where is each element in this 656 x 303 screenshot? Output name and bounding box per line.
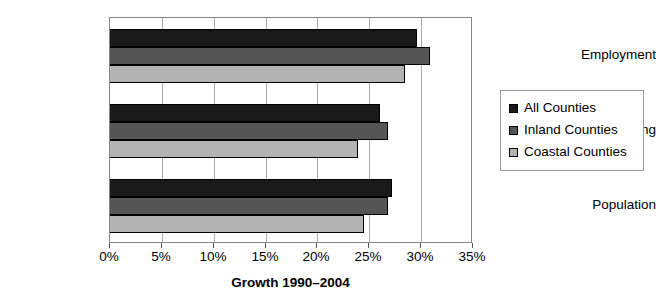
bar-housing-inland-counties <box>110 122 388 140</box>
legend-swatch-icon-inland-counties <box>509 126 518 135</box>
legend-label-all-counties: All Counties <box>524 101 596 115</box>
x-tick-label-10: 10% <box>199 250 226 264</box>
x-tick-label-20: 20% <box>302 250 329 264</box>
x-tick-label-15: 15% <box>251 250 278 264</box>
legend-swatch-icon-coastal-counties <box>509 148 518 157</box>
x-tick-30 <box>420 243 421 248</box>
bar-group-housing <box>110 93 471 168</box>
legend: All Counties Inland Counties Coastal Cou… <box>500 90 644 171</box>
bar-population-inland-counties <box>110 197 388 215</box>
x-tick-label-25: 25% <box>354 250 381 264</box>
bar-population-coastal-counties <box>110 215 364 233</box>
legend-item-all-counties: All Counties <box>509 97 636 119</box>
x-tick-label-30: 30% <box>406 250 433 264</box>
x-axis-title: Growth 1990–2004 <box>109 276 472 290</box>
x-tick-10 <box>213 243 214 248</box>
category-label-0: Employment <box>553 48 656 62</box>
bar-population-all-counties <box>110 179 392 197</box>
x-tick-15 <box>265 243 266 248</box>
plot-area <box>109 17 472 243</box>
legend-swatch-icon-all-counties <box>509 104 518 113</box>
legend-item-inland-counties: Inland Counties <box>509 119 636 141</box>
legend-label-coastal-counties: Coastal Counties <box>524 145 627 159</box>
legend-item-coastal-counties: Coastal Counties <box>509 141 636 163</box>
x-tick-35 <box>472 243 473 248</box>
bar-employment-coastal-counties <box>110 65 405 83</box>
legend-label-inland-counties: Inland Counties <box>524 123 618 137</box>
bar-housing-all-counties <box>110 104 380 122</box>
bar-housing-coastal-counties <box>110 140 358 158</box>
bar-employment-inland-counties <box>110 47 430 65</box>
x-tick-20 <box>316 243 317 248</box>
bar-group-population <box>110 169 471 244</box>
x-tick-label-5: 5% <box>151 250 171 264</box>
bar-group-employment <box>110 18 471 93</box>
x-tick-label-0: 0% <box>99 250 119 264</box>
bar-employment-all-counties <box>110 29 417 47</box>
x-tick-5 <box>161 243 162 248</box>
x-tick-25 <box>368 243 369 248</box>
x-tick-label-35: 35% <box>458 250 485 264</box>
bar-chart: Employment Housing Population Growth 199… <box>0 0 656 303</box>
x-tick-0 <box>109 243 110 248</box>
category-label-2: Population <box>553 198 656 212</box>
